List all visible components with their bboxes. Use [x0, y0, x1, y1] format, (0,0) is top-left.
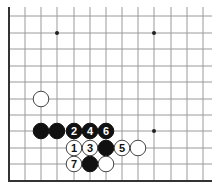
black-stone [33, 123, 49, 139]
move-number: 2 [71, 125, 77, 137]
star-point [55, 31, 59, 35]
star-point [152, 129, 156, 133]
move-number: 3 [87, 142, 93, 154]
white-stone: 1 [66, 140, 82, 156]
black-stone: 2 [66, 123, 82, 139]
white-stone [98, 156, 114, 172]
white-stone: 7 [66, 156, 82, 172]
move-number: 4 [87, 125, 94, 137]
move-number: 1 [71, 142, 77, 154]
white-stone [130, 140, 146, 156]
black-stone [82, 156, 98, 172]
black-stone [49, 123, 65, 139]
black-stone [98, 140, 114, 156]
black-stone: 4 [82, 123, 98, 139]
move-number: 6 [103, 125, 109, 137]
black-stone: 6 [98, 123, 114, 139]
star-point [152, 31, 156, 35]
white-stone: 5 [114, 140, 130, 156]
go-board: 2461357 [0, 0, 218, 196]
move-number: 7 [71, 158, 77, 170]
white-stone: 3 [82, 140, 98, 156]
move-number: 5 [119, 142, 125, 154]
white-stone [33, 91, 49, 107]
